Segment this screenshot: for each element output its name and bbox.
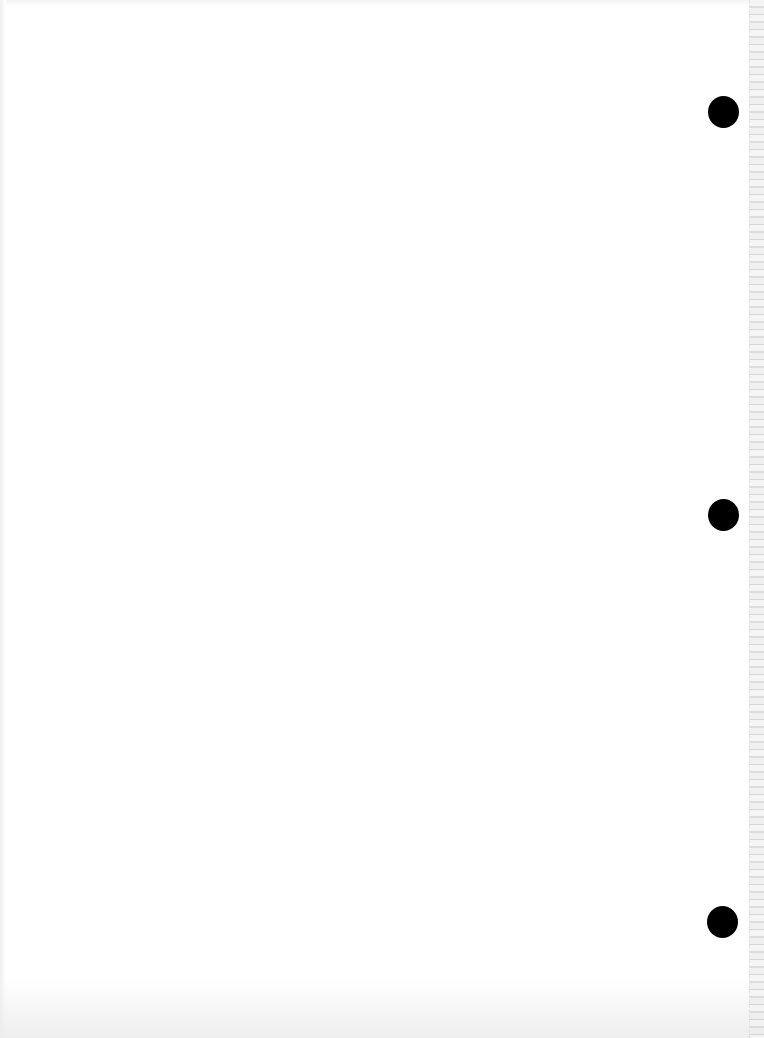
punch-hole-top <box>708 96 739 128</box>
left-edge-shadow <box>0 0 6 1038</box>
top-edge-shadow <box>0 0 764 6</box>
perforated-right-edge <box>749 0 764 1038</box>
bottom-edge-shadow <box>0 978 764 1038</box>
punch-hole-middle <box>708 499 739 531</box>
punch-hole-bottom <box>707 906 738 938</box>
scanned-page <box>0 0 764 1038</box>
